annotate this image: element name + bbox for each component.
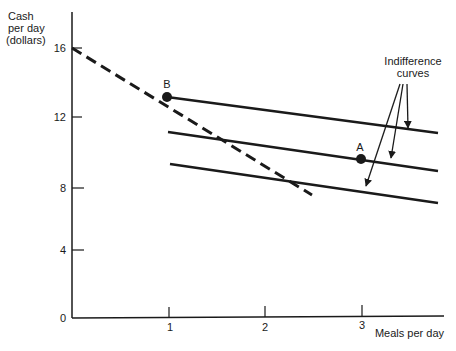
y-axis-title-line1: Cash [8,10,34,22]
indifference-curve-low [170,164,438,203]
y-tick-label-12: 12 [54,111,66,123]
budget-line [72,48,312,195]
y-tick-label-8: 8 [60,182,66,194]
y-tick-label-16: 16 [54,42,66,54]
point-b-marker [162,92,172,102]
annotation-arrow-middle [391,84,403,158]
x-axis [72,316,444,318]
x-axis-title: Meals per day [375,327,445,339]
annotation-line1: Indifference [384,55,441,67]
point-a-label: A [356,141,364,153]
x-tick-label-2: 2 [262,321,268,333]
annotation-line2: curves [397,67,430,79]
y-axis-title-line3: (dollars) [6,34,46,46]
y-tick-label-4: 4 [60,244,66,256]
annotation-arrow-high [407,84,408,128]
indifference-curve-middle [168,132,438,171]
origin-label: 0 [60,312,66,324]
point-a-marker [356,154,366,164]
indifference-chart: 16 12 8 4 0 1 2 3 Cash per day (dollars)… [0,0,456,351]
x-tick-label-3: 3 [359,319,365,331]
point-b-label: B [163,78,170,90]
x-tick-label-1: 1 [167,321,173,333]
y-axis-title-line2: per day [8,22,45,34]
